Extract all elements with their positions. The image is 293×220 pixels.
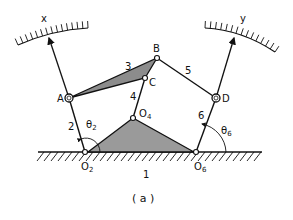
label-link-2: 2 [68, 121, 74, 132]
ground-hatch-mark [170, 152, 177, 161]
ground-hatch-mark [114, 152, 121, 161]
ground-hatch-mark [212, 152, 219, 161]
scale-tick [51, 26, 53, 33]
scale-tick [30, 33, 32, 40]
pivot-O6 [194, 150, 199, 155]
ground-hatch-mark [58, 152, 65, 161]
scale-tick [241, 28, 243, 35]
ground-hatch-mark [72, 152, 79, 161]
scale-x [15, 21, 88, 45]
scale-tick [215, 22, 216, 29]
scale-tick [261, 37, 264, 43]
scale-tick [77, 22, 78, 29]
scale-tick [226, 24, 227, 31]
pivot-O4 [131, 116, 136, 121]
scale-tick [72, 23, 73, 30]
pointer-y [216, 38, 234, 98]
ground-link [37, 152, 262, 161]
label-B: B [153, 43, 160, 54]
scale-tick [246, 30, 249, 37]
label-link-4: 4 [130, 91, 136, 102]
scale-tick [251, 32, 254, 38]
label-link-6: 6 [198, 110, 204, 121]
ground-hatch-mark [51, 152, 58, 161]
ground-hatch-mark [233, 152, 240, 161]
ground-hatch-mark [100, 152, 107, 161]
scale-tick [35, 31, 37, 38]
pivot-O2 [83, 150, 88, 155]
ground-hatch-mark [198, 152, 205, 161]
joint-A [65, 94, 73, 102]
ground-hatch-mark [226, 152, 233, 161]
scale-tick [265, 40, 268, 46]
scale-tick [61, 24, 62, 31]
joint-C [143, 76, 148, 81]
ground-hatch-mark [163, 152, 170, 161]
pointer-x [49, 38, 69, 98]
scale-tick [15, 39, 18, 45]
label-O2: O2 [81, 161, 93, 174]
ground-hatch-mark [107, 152, 114, 161]
label-D: D [222, 93, 230, 104]
scale-tick [25, 34, 28, 41]
label-link-1: 1 [143, 169, 149, 180]
ground-hatch-mark [184, 152, 191, 161]
scale-tick [46, 28, 48, 35]
ground-triangle [88, 118, 194, 152]
ground-hatch-mark [44, 152, 51, 161]
ground-hatch-mark [247, 152, 254, 161]
ground-hatch-mark [254, 152, 261, 161]
label-O6: O6 [194, 161, 207, 174]
label-x: x [41, 13, 47, 24]
ground-hatch-mark [93, 152, 100, 161]
ground-hatch-mark [142, 152, 149, 161]
label-A: A [57, 93, 64, 104]
label-theta2: θ2 [86, 119, 97, 132]
label-link-3: 3 [125, 61, 131, 72]
link-5 [157, 58, 216, 98]
scale-tick [270, 43, 274, 49]
scale-tick [210, 21, 211, 28]
scale-y [205, 21, 279, 52]
joint-D [212, 94, 220, 102]
scale-tick [231, 25, 233, 32]
ground-hatch-mark [128, 152, 135, 161]
joint-B [155, 56, 160, 61]
ground-hatch-mark [240, 152, 247, 161]
ground-hatch-mark [37, 152, 44, 161]
scale-tick [20, 36, 23, 42]
ground-hatch-mark [219, 152, 226, 161]
linkage-diagram: x y A B C D 3 4 5 6 2 1 O2 O4 O6 θ2 θ6 (… [0, 0, 293, 220]
label-O4: O4 [139, 108, 152, 121]
figure-caption: ( a ) [132, 192, 154, 205]
label-theta6: θ6 [221, 125, 232, 138]
ground-hatch-mark [135, 152, 142, 161]
ground-hatch-mark [205, 152, 212, 161]
label-link-5: 5 [185, 65, 191, 76]
ground-hatch-mark [121, 152, 128, 161]
scale-tick [66, 23, 67, 30]
ground-hatch-mark [177, 152, 184, 161]
scale-tick [256, 35, 259, 41]
scale-tick [56, 25, 57, 32]
ground-hatch-mark [156, 152, 163, 161]
scale-tick [275, 46, 279, 52]
label-C: C [149, 77, 156, 88]
scale-tick [41, 29, 43, 36]
scale-tick [82, 21, 83, 28]
ground-hatch-mark [65, 152, 72, 161]
scale-tick [221, 23, 222, 30]
ground-hatch-mark [149, 152, 156, 161]
label-y: y [240, 13, 246, 24]
scale-tick [236, 27, 238, 34]
